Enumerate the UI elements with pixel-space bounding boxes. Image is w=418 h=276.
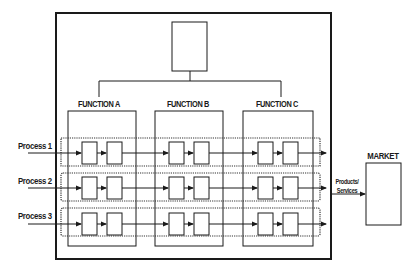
process-2-label: Process 2 (18, 175, 52, 186)
process-1-flow (28, 142, 326, 164)
function-a-box (68, 111, 136, 246)
market-box (366, 163, 401, 225)
function-c-box (243, 111, 313, 246)
process-3-label: Process 3 (18, 210, 52, 221)
process-2-flow (28, 177, 326, 199)
process-1-label: Process 1 (18, 140, 52, 151)
process-3-row (61, 208, 320, 236)
market-label: MARKET (363, 150, 404, 161)
process-2-row (61, 173, 320, 201)
products-services-label: Products/ Services (331, 177, 363, 195)
services-label: Services (331, 186, 363, 195)
function-b-label: FUNCTION B (155, 99, 221, 109)
process-1-row (61, 138, 320, 166)
top-box (172, 22, 207, 71)
function-b-box (155, 111, 223, 246)
products-label: Products/ (331, 177, 363, 186)
process-3-flow (28, 213, 326, 235)
diagram-canvas (0, 0, 418, 276)
function-c-label: FUNCTION C (244, 99, 310, 109)
function-a-label: FUNCTION A (66, 99, 132, 109)
